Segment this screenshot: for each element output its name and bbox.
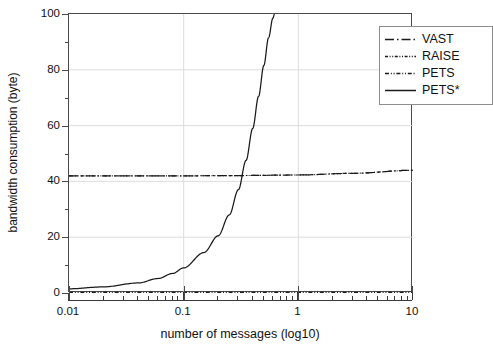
x-tick-minor [217,296,218,300]
y-tick-label: 20 [47,231,60,243]
x-tick-major [183,293,184,300]
x-tick-minor [377,296,378,300]
y-tick-label: 100 [41,8,60,20]
x-tick-minor [263,296,264,300]
legend-line-raise [384,51,417,62]
legend-item[interactable]: PETS* [384,82,488,99]
x-tick-frame [69,286,70,300]
legend: VAST RAISE PETS PETS* [379,26,493,105]
x-tick-minor [292,296,293,300]
x-axis-line [68,300,412,301]
series-layer [69,14,413,292]
x-tick-minor [387,296,388,300]
y-tick-major [62,126,69,127]
x-tick-minor [157,296,158,300]
y-axis-title: bandwidth consumption (byte) [6,13,22,292]
y-tick-minor [65,154,69,155]
x-tick-minor [394,296,395,300]
x-tick-minor [177,296,178,300]
y-tick-minor [65,98,69,99]
series-line-raise [69,170,413,176]
y-tick-label: 80 [47,64,60,76]
legend-label-pets: PETS [422,67,455,80]
legend-label-pets-star: PETS* [422,84,460,97]
series-line-pets-star [69,14,275,289]
y-tick-minor [65,209,69,210]
x-tick-minor [332,296,333,300]
y-tick-major [62,70,69,71]
gridlines [69,14,413,293]
y-tick-label: 60 [47,120,60,132]
legend-label-vast: VAST [422,33,454,46]
legend-line-pets-star [384,85,417,96]
y-tick-major [62,181,69,182]
legend-item[interactable]: PETS [384,65,488,82]
x-tick-minor [137,296,138,300]
legend-label-raise: RAISE [422,50,460,63]
y-tick-major [62,14,69,15]
y-tick-minor [65,42,69,43]
legend-line-vast [384,34,417,45]
x-tick-minor [407,296,408,300]
y-tick-minor [65,265,69,266]
y-tick-major [62,237,69,238]
x-tick-label: 10 [406,306,419,318]
x-tick-label: 0.01 [57,306,79,318]
plot-area: 020406080100 VAST RAISE PETS [68,13,412,292]
x-tick-minor [172,296,173,300]
x-tick-minor [286,296,287,300]
x-tick-frame [298,286,299,300]
x-tick-major [68,293,69,300]
x-tick-minor [366,296,367,300]
y-tick-label: 0 [54,287,60,299]
x-tick-minor [237,296,238,300]
legend-item[interactable]: RAISE [384,48,488,65]
x-tick-frame [184,286,185,300]
legend-line-pets [384,68,417,79]
x-tick-minor [103,296,104,300]
y-tick-label: 40 [47,176,60,188]
x-tick-minor [280,296,281,300]
x-tick-minor [123,296,124,300]
plot-canvas [69,14,413,293]
x-tick-minor [272,296,273,300]
x-axis: 0.010.1110 [68,300,412,301]
x-tick-label: 0.1 [175,306,191,318]
legend-item[interactable]: VAST [384,31,488,48]
x-axis-title: number of messages (log10) [68,327,412,341]
x-tick-minor [252,296,253,300]
x-tick-minor [148,296,149,300]
x-tick-major [412,293,413,300]
x-tick-major [297,293,298,300]
x-tick-minor [401,296,402,300]
x-tick-minor [352,296,353,300]
x-tick-minor [165,296,166,300]
x-tick-label: 1 [294,306,300,318]
